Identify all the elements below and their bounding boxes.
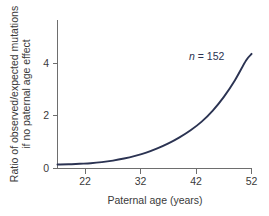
y-axis-title-line2: if no paternal age effect <box>20 39 32 149</box>
y-tick-label-0: 0 <box>43 162 49 174</box>
chart-svg: 0 2 4 22 32 42 52 Paternal age (years) R… <box>0 0 269 216</box>
x-tick-label-32: 32 <box>135 175 147 187</box>
x-tick-label-52: 52 <box>246 175 258 187</box>
x-tick-label-42: 42 <box>190 175 202 187</box>
y-tick-label-2: 2 <box>43 109 49 121</box>
data-series-curve <box>58 54 252 165</box>
y-axis-ticks <box>53 63 58 168</box>
sample-size-value: = 152 <box>195 50 225 62</box>
x-axis-ticks <box>85 169 252 174</box>
sample-size-annotation: n = 152 <box>189 50 224 62</box>
y-axis-title-line1: Ratio of observed/expected mutations <box>8 6 20 182</box>
y-tick-label-4: 4 <box>43 57 49 69</box>
x-tick-label-22: 22 <box>79 175 91 187</box>
figure-panel: 0 2 4 22 32 42 52 Paternal age (years) R… <box>0 0 269 216</box>
x-axis-title: Paternal age (years) <box>107 194 202 206</box>
